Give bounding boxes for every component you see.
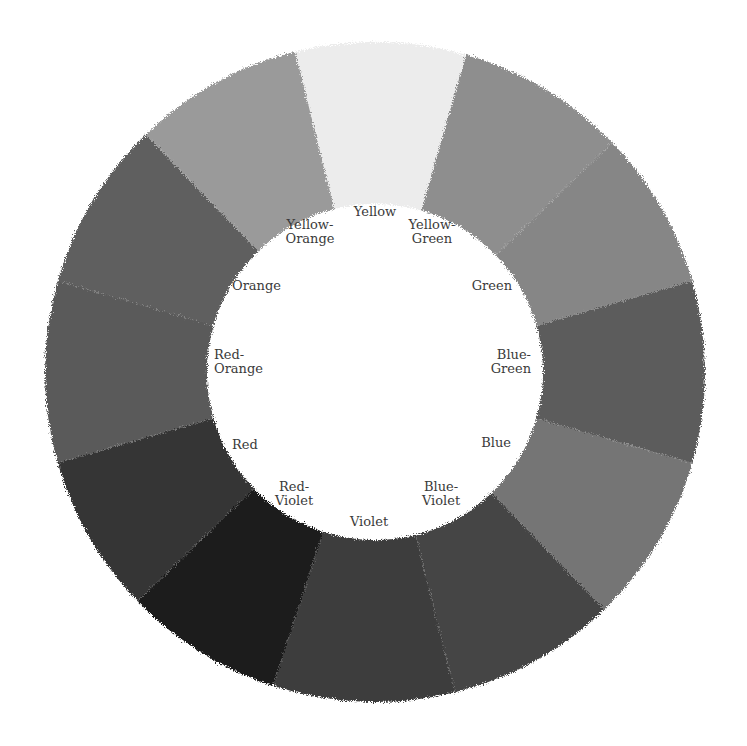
label-blue: Blue xyxy=(481,436,511,450)
label-violet: Violet xyxy=(350,515,388,529)
label-red: Red xyxy=(232,438,258,452)
label-orange: Orange xyxy=(232,279,281,293)
label-yellow: Yellow xyxy=(354,205,396,219)
label-blue-green: Blue- Green xyxy=(491,348,531,376)
label-red-violet: Red- Violet xyxy=(275,480,313,508)
label-blue-violet: Blue- Violet xyxy=(422,480,460,508)
label-green: Green xyxy=(472,279,512,293)
color-wheel xyxy=(0,0,747,746)
label-yellow-green: Yellow- Green xyxy=(409,218,456,246)
label-yellow-orange: Yellow- Orange xyxy=(285,218,334,246)
label-red-orange: Red- Orange xyxy=(214,348,263,376)
